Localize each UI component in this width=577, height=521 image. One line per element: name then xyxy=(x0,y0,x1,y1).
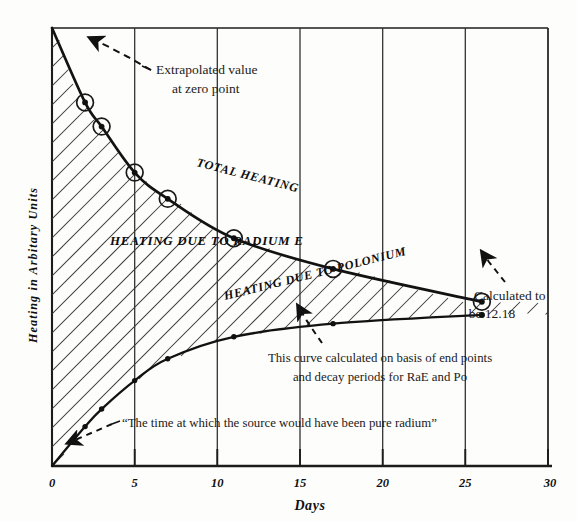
data-point-marker-dot xyxy=(82,424,87,429)
x-tick-label-25: 25 xyxy=(458,476,472,490)
pure-radium-line1: “The time at which the source would have… xyxy=(122,416,437,430)
radium-heating-chart: TOTAL HEATING HEATING DUE TO POLONIUM HE… xyxy=(0,0,577,521)
calculated-value-line2: be 12.18 xyxy=(469,306,516,321)
extrapolated-value-line1: Extrapolated value xyxy=(156,62,258,77)
x-tick-label-30: 30 xyxy=(543,476,557,490)
x-tick-label-10: 10 xyxy=(211,476,224,490)
data-point-marker-dot xyxy=(99,124,105,130)
x-tick-label-15: 15 xyxy=(294,476,307,490)
curve-basis-line1: This curve calculated on basis of end po… xyxy=(268,351,492,365)
calculated-value-line1: Calculated to xyxy=(474,288,546,303)
y-axis-title: Heating in Arbitary Units xyxy=(26,187,40,344)
data-point-marker-dot xyxy=(132,378,137,383)
data-point-marker-dot xyxy=(132,170,138,176)
data-point-marker-dot xyxy=(165,356,170,361)
x-axis-title: Days xyxy=(293,498,325,513)
data-point-marker-dot xyxy=(82,100,88,106)
curve-basis-line2: and decay periods for RaE and Po xyxy=(293,370,467,384)
x-tick-label-5: 5 xyxy=(132,476,138,490)
x-tick-label-20: 20 xyxy=(375,476,389,490)
figure-page: TOTAL HEATING HEATING DUE TO POLONIUM HE… xyxy=(0,0,577,521)
data-point-marker-dot xyxy=(165,196,171,202)
extrapolated-value-line2: at zero point xyxy=(172,81,240,96)
radium-e-region-label: HEATING DUE TO RADIUM E xyxy=(109,233,304,248)
data-point-marker-dot xyxy=(231,334,236,339)
data-point-marker-dot xyxy=(330,321,335,326)
data-point-marker-dot xyxy=(99,406,104,411)
x-tick-label-0: 0 xyxy=(49,476,56,490)
